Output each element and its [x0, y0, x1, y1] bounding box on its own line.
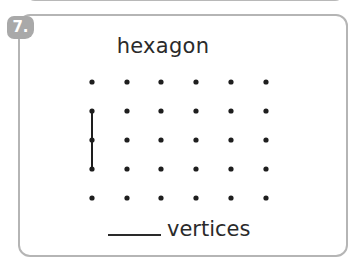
grid-dot[interactable] [158, 166, 163, 171]
grid-dot[interactable] [124, 166, 129, 171]
grid-dot[interactable] [193, 79, 198, 84]
grid-dot[interactable] [89, 166, 94, 171]
grid-dot[interactable] [228, 79, 233, 84]
grid-dot[interactable] [263, 166, 268, 171]
grid-dot[interactable] [89, 79, 94, 84]
grid-dot[interactable] [158, 108, 163, 113]
grid-dot[interactable] [228, 195, 233, 200]
grid-dot[interactable] [124, 195, 129, 200]
grid-dot[interactable] [89, 108, 94, 113]
grid-dot[interactable] [89, 137, 94, 142]
grid-dot[interactable] [158, 137, 163, 142]
grid-dot[interactable] [263, 137, 268, 142]
grid-dot[interactable] [228, 108, 233, 113]
grid-dot[interactable] [89, 195, 94, 200]
grid-dot[interactable] [158, 195, 163, 200]
grid-dot[interactable] [228, 166, 233, 171]
answer-line: vertices [108, 216, 250, 241]
grid-dot[interactable] [158, 79, 163, 84]
answer-suffix-label: vertices [167, 217, 250, 241]
grid-dot[interactable] [124, 79, 129, 84]
grid-dot[interactable] [263, 195, 268, 200]
grid-dot[interactable] [124, 137, 129, 142]
grid-dot[interactable] [193, 166, 198, 171]
grid-dot[interactable] [193, 108, 198, 113]
grid-dot[interactable] [263, 79, 268, 84]
answer-blank-input[interactable] [108, 216, 161, 236]
grid-dot[interactable] [124, 108, 129, 113]
grid-dot[interactable] [193, 137, 198, 142]
grid-dot[interactable] [263, 108, 268, 113]
grid-dot[interactable] [193, 195, 198, 200]
grid-dot[interactable] [228, 137, 233, 142]
